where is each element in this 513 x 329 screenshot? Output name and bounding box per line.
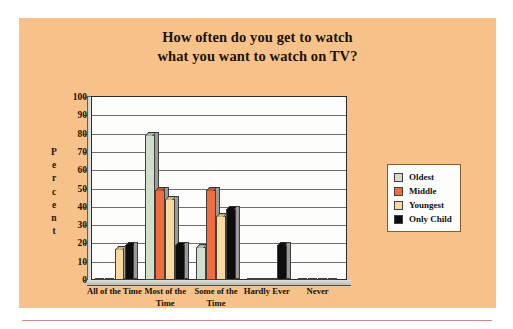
y-axis-ticks: 1009080706050403020100 xyxy=(57,96,87,280)
chart-title-line-1: How often do you get to watch xyxy=(19,28,496,47)
legend-swatch xyxy=(394,173,403,182)
x-axis-labels: All of the TimeMost of theTimeSome of th… xyxy=(79,286,369,320)
bar xyxy=(175,245,185,280)
legend-item: Only Child xyxy=(394,212,452,226)
legend-label: Only Child xyxy=(409,214,452,224)
bar xyxy=(145,135,155,280)
bar xyxy=(206,190,216,280)
chart-legend: OldestMiddleYoungestOnly Child xyxy=(387,164,461,232)
bar xyxy=(115,249,125,280)
bar-side-face xyxy=(287,242,291,279)
bar xyxy=(226,209,236,280)
bar xyxy=(196,247,206,280)
legend-label: Oldest xyxy=(409,172,434,182)
chart-title: How often do you get to watch what you w… xyxy=(19,28,496,66)
bar xyxy=(277,245,287,280)
legend-label: Middle xyxy=(409,186,437,196)
bar xyxy=(155,190,165,280)
bar-side-face xyxy=(134,242,138,279)
bar xyxy=(216,216,226,280)
bottom-divider-rule xyxy=(22,320,492,321)
legend-item: Youngest xyxy=(394,198,452,212)
x-axis-tick-label-line: Never xyxy=(282,286,354,298)
bars-layer xyxy=(92,97,346,280)
legend-swatch xyxy=(394,187,403,196)
bar-side-face xyxy=(185,242,189,279)
legend-swatch xyxy=(394,215,403,224)
chart-title-line-2: what you want to watch on TV? xyxy=(19,47,496,66)
legend-label: Youngest xyxy=(409,200,444,210)
x-axis-tick-label-line: Time xyxy=(180,298,252,310)
x-axis-tick-label: Never xyxy=(282,286,354,298)
bar xyxy=(165,199,175,280)
bar-side-face xyxy=(236,206,240,279)
chart-figure-panel: How often do you get to watch what you w… xyxy=(19,18,496,308)
legend-item: Middle xyxy=(394,184,452,198)
legend-item: Oldest xyxy=(394,170,452,184)
legend-swatch xyxy=(394,201,403,210)
bar xyxy=(125,245,135,280)
